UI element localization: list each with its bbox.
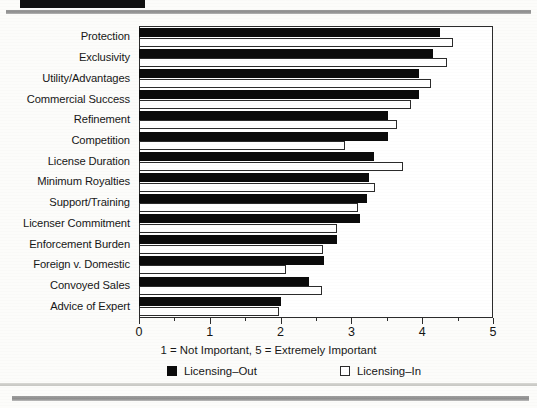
x-tick-label: 5 — [490, 325, 497, 339]
category-axis-labels: ProtectionExclusivityUtility/AdvantagesC… — [0, 27, 135, 317]
x-tick-label: 0 — [136, 325, 143, 339]
bar-licensing-out — [139, 277, 309, 286]
bar-licensing-in — [139, 203, 358, 212]
bar-group — [139, 255, 493, 276]
x-tick-label: 2 — [277, 325, 284, 339]
x-tick — [210, 318, 211, 324]
x-minor-tick — [174, 318, 175, 321]
bar-licensing-out — [139, 90, 419, 99]
bar-licensing-in — [139, 224, 337, 233]
bar-licensing-out — [139, 214, 360, 223]
bar-licensing-in — [139, 58, 447, 67]
x-minor-tick — [458, 318, 459, 321]
page-bottom-rule — [12, 396, 529, 401]
bar-group — [139, 27, 493, 48]
x-minor-tick — [387, 318, 388, 321]
category-label: Advice of Expert — [50, 300, 130, 312]
chart-legend: Licensing–OutLicensing–In — [0, 365, 537, 383]
x-tick-label: 1 — [206, 325, 213, 339]
category-label: Licenser Commitment — [23, 217, 130, 229]
bar-licensing-in — [139, 100, 411, 109]
bar-licensing-in — [139, 183, 375, 192]
bar-licensing-out — [139, 28, 440, 37]
figure-page: ProtectionExclusivityUtility/AdvantagesC… — [0, 0, 537, 408]
legend-label: Licensing–Out — [184, 365, 257, 377]
bar-licensing-out — [139, 297, 281, 306]
category-label: Enforcement Burden — [29, 238, 130, 250]
bar-licensing-in — [139, 245, 323, 254]
legend-item: Licensing–Out — [167, 365, 257, 377]
bars-layer — [139, 27, 493, 317]
bar-licensing-out — [139, 132, 388, 141]
category-label: Exclusivity — [79, 51, 130, 63]
bar-group — [139, 110, 493, 131]
bar-group — [139, 151, 493, 172]
category-label: Commercial Success — [27, 93, 130, 105]
bar-licensing-in — [139, 79, 431, 88]
category-label: Protection — [81, 30, 130, 42]
bar-licensing-in — [139, 286, 322, 295]
bar-group — [139, 193, 493, 214]
bar-licensing-out — [139, 235, 337, 244]
category-label: Support/Training — [49, 196, 130, 208]
x-axis: 012345 — [139, 318, 493, 340]
x-tick — [281, 318, 282, 324]
x-minor-tick — [245, 318, 246, 321]
page-bottom-light-rule — [0, 383, 537, 386]
bar-licensing-in — [139, 307, 279, 316]
bar-group — [139, 234, 493, 255]
bar-licensing-in — [139, 120, 397, 129]
bar-licensing-in — [139, 162, 403, 171]
x-tick — [422, 318, 423, 324]
bar-licensing-in — [139, 265, 286, 274]
category-label: Convoyed Sales — [50, 279, 130, 291]
category-label: Minimum Royalties — [37, 175, 130, 187]
x-tick-label: 3 — [348, 325, 355, 339]
category-label: Competition — [71, 134, 130, 146]
bar-licensing-out — [139, 152, 374, 161]
category-label: License Duration — [48, 155, 130, 167]
page-top-black-marker — [20, 0, 145, 8]
bar-group — [139, 131, 493, 152]
bar-group — [139, 276, 493, 297]
bar-group — [139, 89, 493, 110]
x-tick — [139, 318, 140, 324]
legend-swatch-licensing-out — [167, 366, 177, 376]
x-axis-caption: 1 = Not Important, 5 = Extremely Importa… — [0, 344, 537, 356]
x-tick — [351, 318, 352, 324]
bar-group — [139, 213, 493, 234]
x-tick-label: 4 — [419, 325, 426, 339]
page-top-rule — [6, 10, 531, 14]
bar-licensing-in — [139, 38, 453, 47]
x-minor-tick — [316, 318, 317, 321]
bar-group — [139, 172, 493, 193]
bar-licensing-out — [139, 49, 433, 58]
bar-licensing-out — [139, 111, 388, 120]
category-label: Refinement — [74, 113, 130, 125]
legend-swatch-licensing-in — [340, 366, 350, 376]
bar-group — [139, 48, 493, 69]
bar-licensing-out — [139, 194, 367, 203]
bar-licensing-out — [139, 173, 369, 182]
x-tick — [493, 318, 494, 324]
bar-group — [139, 68, 493, 89]
legend-item: Licensing–In — [340, 365, 421, 377]
bar-group — [139, 296, 493, 317]
category-label: Foreign v. Domestic — [33, 258, 130, 270]
legend-label: Licensing–In — [357, 365, 421, 377]
bar-licensing-out — [139, 256, 324, 265]
bar-licensing-out — [139, 69, 419, 78]
bar-licensing-in — [139, 141, 345, 150]
category-label: Utility/Advantages — [42, 72, 130, 84]
